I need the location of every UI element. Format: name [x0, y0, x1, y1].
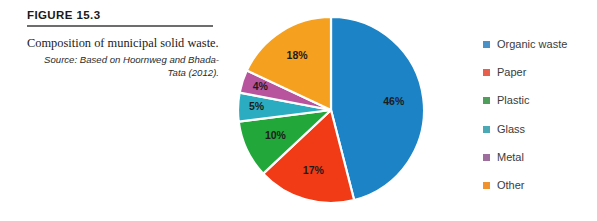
figure-rule-divider	[27, 25, 213, 27]
legend-item-label: Plastic	[497, 95, 529, 106]
legend-swatch-icon	[483, 69, 490, 76]
figure-container: FIGURE 15.3 Composition of municipal sol…	[0, 0, 597, 221]
figure-caption-block: FIGURE 15.3 Composition of municipal sol…	[27, 8, 219, 79]
legend-item-label: Other	[497, 180, 525, 191]
figure-caption-text: Composition of municipal solid waste.	[27, 36, 219, 51]
legend-item[interactable]: Metal	[483, 152, 593, 163]
legend-item-label: Glass	[497, 124, 525, 135]
pie-slice-label: 17%	[303, 164, 325, 176]
figure-source-credit: Source: Based on Hoornweg and Bhada-Tata…	[27, 53, 219, 79]
pie-slice-label: 10%	[265, 129, 287, 141]
legend-item-label: Organic waste	[497, 39, 567, 50]
legend-swatch-icon	[483, 182, 490, 189]
legend-item-label: Paper	[497, 67, 526, 78]
pie-slice-label: 46%	[383, 95, 405, 107]
legend-item[interactable]: Paper	[483, 67, 593, 78]
legend-item[interactable]: Organic waste	[483, 39, 593, 50]
chart-legend: Organic wastePaperPlasticGlassMetalOther	[483, 39, 593, 208]
pie-slice-label: 4%	[253, 80, 269, 92]
legend-swatch-icon	[483, 126, 490, 133]
legend-swatch-icon	[483, 154, 490, 161]
legend-swatch-icon	[483, 97, 490, 104]
pie-chart: 46%17%10%5%4%18%	[236, 14, 428, 210]
figure-number: FIGURE 15.3	[27, 8, 219, 22]
pie-slice-group	[238, 17, 424, 203]
pie-slice-label: 5%	[249, 100, 265, 112]
pie-chart-svg: 46%17%10%5%4%18%	[236, 14, 428, 210]
legend-item[interactable]: Plastic	[483, 95, 593, 106]
legend-item[interactable]: Glass	[483, 124, 593, 135]
legend-item[interactable]: Other	[483, 180, 593, 191]
legend-item-label: Metal	[497, 152, 524, 163]
legend-swatch-icon	[483, 41, 490, 48]
pie-slice-label: 18%	[287, 49, 309, 61]
